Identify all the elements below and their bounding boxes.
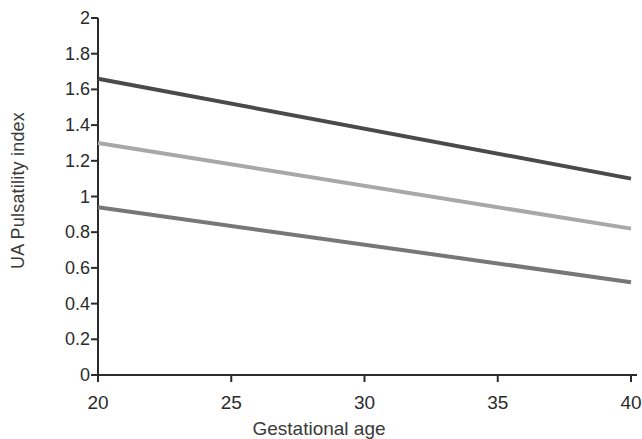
data-series-lines [98, 79, 631, 282]
series-line-upper-centile [98, 79, 631, 179]
series-line-lower-centile [98, 207, 631, 282]
axis-tick-marks [91, 18, 631, 382]
series-line-median-centile [98, 143, 631, 229]
axis-lines [98, 18, 637, 375]
x-axis-title: Gestational age [0, 419, 638, 438]
